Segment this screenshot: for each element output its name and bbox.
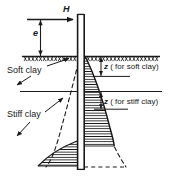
pile-lateral-load-diagram: H e Soft clay Stiff clay z ( for soft cl… bbox=[0, 0, 176, 178]
label-depth-stiff-note: ( for stiff clay) bbox=[110, 97, 158, 106]
label-depth-stiff-symbol: z bbox=[104, 97, 108, 106]
eccentricity-dimension bbox=[38, 20, 42, 57]
label-depth-stiff-clay: z ( for stiff clay) bbox=[104, 98, 158, 106]
pressure-envelope-dashed bbox=[115, 147, 127, 167]
pressure-diagram-left bbox=[38, 141, 77, 166]
label-stiff-clay: Stiff clay bbox=[7, 110, 41, 119]
label-eccentricity-e: e bbox=[33, 29, 38, 38]
ground-surface bbox=[22, 57, 160, 62]
label-lateral-load-H: H bbox=[63, 5, 70, 14]
pile bbox=[77, 14, 84, 170]
diagram-canvas bbox=[0, 0, 176, 178]
label-depth-soft-clay: z ( for soft clay) bbox=[104, 63, 159, 71]
label-depth-soft-note: ( for soft clay) bbox=[110, 62, 158, 71]
label-soft-clay: Soft clay bbox=[7, 66, 42, 75]
label-depth-soft-symbol: z bbox=[104, 62, 108, 71]
